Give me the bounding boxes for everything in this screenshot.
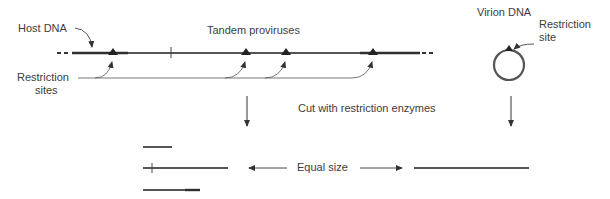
restriction-site-marker: [108, 48, 118, 55]
restriction-site-marker: [368, 48, 378, 55]
host-dna-pointer-arrow: [75, 28, 92, 47]
restriction-site-marker: [281, 48, 291, 55]
equal-size-label: Equal size: [297, 161, 348, 174]
virion-dna-circle: [494, 50, 524, 80]
restriction-site-label-line2: site: [539, 31, 556, 44]
restriction-sites-label-line1: Restriction: [17, 71, 69, 84]
restriction-site-label-line1: Restriction: [539, 18, 591, 31]
restriction-sites-leader: [78, 62, 112, 78]
host-dna-label: Host DNA: [18, 22, 67, 35]
restriction-sites-label-line2: sites: [35, 84, 58, 97]
virion-restriction-site-marker: [505, 45, 513, 51]
restriction-site-marker: [241, 48, 251, 55]
tandem-proviruses-label: Tandem proviruses: [207, 24, 300, 37]
restriction-sites-leader: [95, 62, 245, 78]
cut-step-label: Cut with restriction enzymes: [298, 102, 436, 115]
virion-site-pointer-arrow: [514, 44, 534, 49]
restriction-sites-leader: [225, 62, 285, 78]
virion-dna-label: Virion DNA: [477, 6, 531, 19]
